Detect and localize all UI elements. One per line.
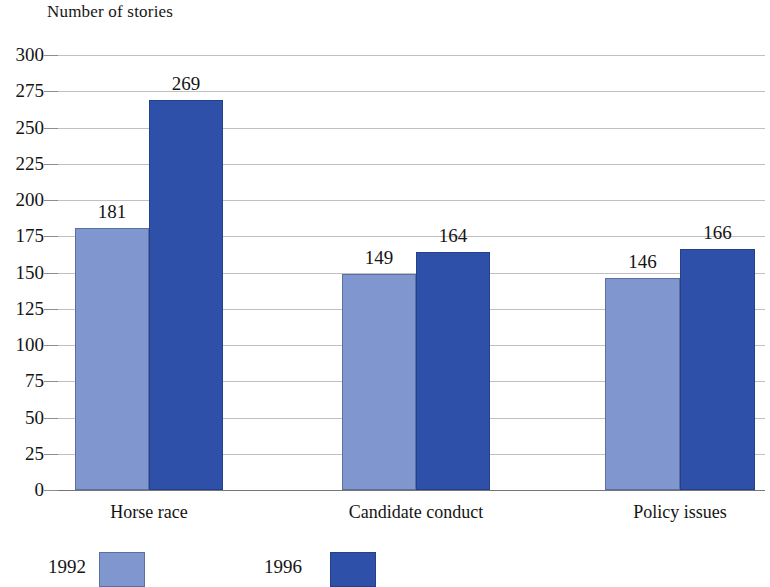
bar-value-label: 181 (63, 202, 161, 221)
legend-label: 1996 (264, 556, 302, 578)
x-axis-category-label: Candidate conduct (282, 502, 550, 522)
y-axis-tick-label: 0 (0, 480, 44, 499)
y-axis-tick-mark (44, 381, 58, 382)
legend-color-swatch (99, 552, 145, 587)
y-axis-tick-label: 250 (0, 118, 44, 137)
y-axis-tick-mark (44, 128, 58, 129)
y-axis-tick-label: 275 (0, 81, 44, 100)
legend-label: 1992 (48, 556, 86, 578)
bar-1992-horse-race (75, 228, 149, 490)
gridline (58, 55, 765, 56)
y-axis-tick-mark (44, 91, 58, 92)
y-axis-tick-label: 225 (0, 154, 44, 173)
legend-item-1996: 1996 (264, 546, 376, 587)
y-axis-tick-label: 25 (0, 444, 44, 463)
plot-area: 181269149164146166 (58, 55, 765, 490)
y-axis-tick-label: 300 (0, 45, 44, 64)
y-axis-tick-label: 175 (0, 226, 44, 245)
y-axis-tick-mark (44, 490, 58, 491)
bar-1992-policy-issues (605, 278, 680, 490)
y-axis-tick-label: 200 (0, 190, 44, 209)
y-axis-tick-mark (44, 164, 58, 165)
y-axis-tick-mark (44, 454, 58, 455)
y-axis-tick-mark (44, 418, 58, 419)
bar-1996-policy-issues (680, 249, 755, 490)
chart-legend: 19921996 (0, 546, 770, 587)
bar-value-label: 166 (668, 223, 767, 242)
x-axis-category-label: Policy issues (545, 502, 770, 522)
y-axis-tick-label: 50 (0, 408, 44, 427)
y-axis-tick-label: 125 (0, 299, 44, 318)
legend-color-swatch (330, 552, 376, 587)
x-axis-baseline (58, 490, 765, 491)
bar-1996-horse-race (149, 100, 223, 490)
chart-title: Number of stories (47, 2, 173, 22)
bar-value-label: 146 (593, 252, 692, 271)
y-axis-tick-label: 150 (0, 263, 44, 282)
y-axis-tick-mark (44, 273, 58, 274)
bar-value-label: 149 (330, 248, 428, 267)
bar-chart: Number of stories 181269149164146166 Hor… (0, 0, 770, 587)
x-axis-category-label: Horse race (15, 502, 283, 522)
bar-1992-candidate-conduct (342, 274, 416, 490)
y-axis-tick-mark (44, 345, 58, 346)
y-axis-tick-mark (44, 236, 58, 237)
bar-value-label: 164 (404, 226, 502, 245)
bar-1996-candidate-conduct (416, 252, 490, 490)
y-axis-tick-mark (44, 55, 58, 56)
legend-item-1992: 1992 (48, 546, 145, 587)
bar-value-label: 269 (137, 74, 235, 93)
y-axis-tick-mark (44, 309, 58, 310)
y-axis-tick-label: 75 (0, 371, 44, 390)
y-axis-tick-mark (44, 200, 58, 201)
y-axis-tick-label: 100 (0, 335, 44, 354)
